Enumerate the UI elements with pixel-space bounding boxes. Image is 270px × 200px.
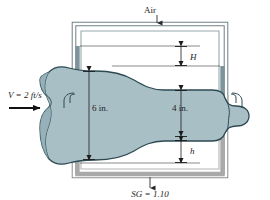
- inlet-diameter-label: 6 in.: [92, 103, 108, 113]
- throat-diameter-label: 4 in.: [172, 103, 188, 113]
- lower-height-label: h: [190, 146, 195, 156]
- velocity-label: V = 2 ft/s: [8, 90, 42, 100]
- upper-reference-lines: [80, 46, 220, 66]
- specific-gravity-label: SG = 1.10: [131, 189, 169, 199]
- upper-height-label: H: [189, 52, 197, 62]
- H-dimension: [175, 46, 187, 66]
- venturi-pipe: [40, 67, 249, 164]
- venturi-meter-diagram: 6 in. 4 in. H h Air V = 2 ft/s SG = 1.10: [0, 0, 270, 200]
- figure-container: 6 in. 4 in. H h Air V = 2 ft/s SG = 1.10: [0, 0, 270, 200]
- air-label: Air: [144, 5, 156, 15]
